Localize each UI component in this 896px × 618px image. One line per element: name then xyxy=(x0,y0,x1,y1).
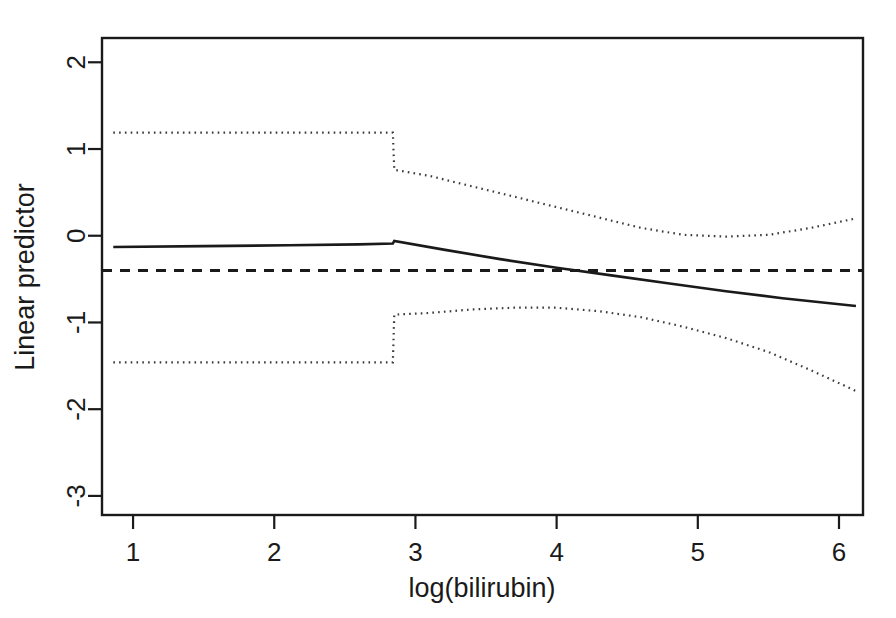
series-upper-confidence-limit xyxy=(113,133,856,237)
plot-frame xyxy=(102,38,863,515)
y-axis-ticks xyxy=(88,62,102,496)
y-tick-label-1: 1 xyxy=(61,142,91,156)
x-tick-label-5: 5 xyxy=(691,537,705,567)
y-axis-tick-labels: 210-1-2-3 xyxy=(61,55,91,507)
y-tick-label-2: 2 xyxy=(61,55,91,69)
chart-figure: 123456 210-1-2-3 log(bilirubin) Linear p… xyxy=(0,0,896,618)
x-tick-label-3: 3 xyxy=(408,537,422,567)
x-tick-label-6: 6 xyxy=(832,537,846,567)
series-fitted-linear-predictor xyxy=(113,241,856,306)
x-tick-label-1: 1 xyxy=(126,537,140,567)
y-tick-label-0: 0 xyxy=(61,229,91,243)
x-tick-label-4: 4 xyxy=(549,537,563,567)
x-axis-ticks xyxy=(133,515,839,529)
y-tick-label--3: -3 xyxy=(61,484,91,507)
x-axis-tick-labels: 123456 xyxy=(126,537,846,567)
series-lower-confidence-limit xyxy=(113,308,856,391)
x-tick-label-2: 2 xyxy=(267,537,281,567)
y-tick-label--1: -1 xyxy=(61,311,91,334)
data-series-group xyxy=(102,133,863,391)
linear-predictor-plot: 123456 210-1-2-3 log(bilirubin) Linear p… xyxy=(0,0,896,618)
y-axis-title: Linear predictor xyxy=(10,183,40,371)
x-axis-title: log(bilirubin) xyxy=(408,573,555,603)
y-tick-label--2: -2 xyxy=(61,398,91,421)
